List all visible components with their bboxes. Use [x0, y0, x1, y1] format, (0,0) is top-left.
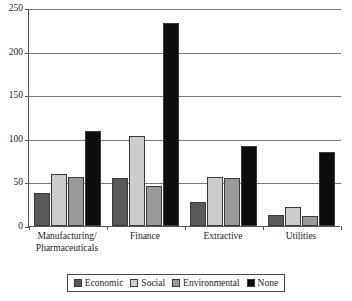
bar-environmental [224, 178, 240, 226]
bar-none [241, 146, 257, 226]
legend-swatch-icon [74, 279, 82, 287]
y-axis-tick-label: 200 [9, 48, 23, 58]
x-axis-tick [263, 226, 264, 230]
bar-social [207, 177, 223, 226]
x-axis-category-label-line2: Pharmaceuticals [28, 243, 106, 255]
bar-environmental [146, 186, 162, 226]
y-axis-tick-label: 0 [18, 222, 23, 232]
legend-swatch-icon [130, 279, 138, 287]
x-axis-tick [29, 226, 30, 230]
legend-item-label: None [258, 277, 279, 289]
bar-none [319, 152, 335, 226]
x-axis-category-label-line1: Finance [130, 231, 160, 241]
bar-group [107, 9, 185, 226]
bar-groups [29, 9, 340, 226]
x-axis-category-label: Manufacturing/Pharmaceuticals [28, 231, 106, 263]
x-axis-tick [185, 226, 186, 230]
plot-area: 050100150200250 [28, 9, 340, 227]
x-axis-category-label-line1: Extractive [203, 231, 242, 241]
legend-item-economic[interactable]: Economic [74, 277, 124, 289]
legend-item-environmental[interactable]: Environmental [172, 277, 239, 289]
bar-social [51, 174, 67, 226]
bar-group [29, 9, 107, 226]
chart-legend: EconomicSocialEnvironmentalNone [67, 274, 285, 292]
bar-group [262, 9, 340, 226]
x-axis-tick [107, 226, 108, 230]
legend-swatch-icon [172, 279, 180, 287]
bar-economic [268, 215, 284, 226]
y-axis-tick-label: 250 [9, 4, 23, 14]
x-axis-category-label: Finance [106, 231, 184, 263]
legend-swatch-icon [247, 279, 255, 287]
x-axis-tick [341, 226, 342, 230]
x-axis-category-label-line1: Utilities [286, 231, 317, 241]
x-axis-category-label: Extractive [184, 231, 262, 263]
legend-item-social[interactable]: Social [130, 277, 165, 289]
bar-chart: 050100150200250 Manufacturing/Pharmaceut… [0, 0, 352, 301]
x-axis-labels: Manufacturing/PharmaceuticalsFinanceExtr… [28, 231, 340, 263]
y-axis-tick-label: 150 [9, 91, 23, 101]
legend-item-label: Environmental [183, 277, 239, 289]
bar-social [285, 207, 301, 226]
legend-item-label: Economic [85, 277, 124, 289]
bar-economic [34, 193, 50, 226]
bar-environmental [68, 177, 84, 226]
bar-none [163, 23, 179, 226]
bar-environmental [302, 216, 318, 226]
bar-economic [112, 178, 128, 226]
legend-item-none[interactable]: None [247, 277, 279, 289]
x-axis-category-label: Utilities [262, 231, 340, 263]
bar-social [129, 136, 145, 226]
x-axis-category-label-line1: Manufacturing/ [37, 231, 96, 241]
bar-none [85, 131, 101, 226]
y-axis-tick-label: 100 [9, 135, 23, 145]
legend-item-label: Social [141, 277, 165, 289]
bar-group [185, 9, 263, 226]
bar-economic [190, 202, 206, 226]
y-axis-tick-label: 50 [14, 179, 24, 189]
